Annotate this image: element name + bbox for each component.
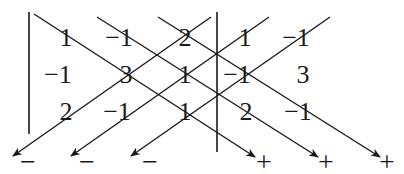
minus-sign-1: − [20,146,36,174]
minus-sign-2: − [79,146,95,174]
cell-r1-c4: 1 [239,23,252,52]
minus-sign-3: − [142,146,158,174]
matrix-entries: 1 −1 2 1 −1 −1 3 1 −1 3 2 −1 1 2 −1 [44,23,312,126]
cell-r1-c5: −1 [282,23,310,52]
cell-r3-c3: 1 [179,97,192,126]
cell-r2-c1: −1 [44,60,72,89]
cell-r2-c5: 3 [297,60,310,89]
sign-labels: − − − + + + [20,146,395,174]
cell-r3-c2: −1 [103,97,131,126]
cell-r1-c2: −1 [105,23,133,52]
cell-r2-c3: 1 [179,60,192,89]
plus-sign-2: + [318,146,334,174]
positive-diagonals [34,14,380,157]
cell-r3-c4: 2 [240,97,253,126]
cell-r2-c2: 3 [120,60,133,89]
plus-sign-3: + [379,146,395,174]
cell-r1-c1: 1 [60,23,73,52]
cell-r3-c1: 2 [60,97,73,126]
cell-r2-c4: −1 [223,60,251,89]
cell-r3-c5: −1 [284,97,312,126]
plus-sign-1: + [256,146,272,174]
sarrus-diagram: 1 −1 2 1 −1 −1 3 1 −1 3 2 −1 1 2 −1 − − … [0,0,404,174]
cell-r1-c3: 2 [179,23,192,52]
